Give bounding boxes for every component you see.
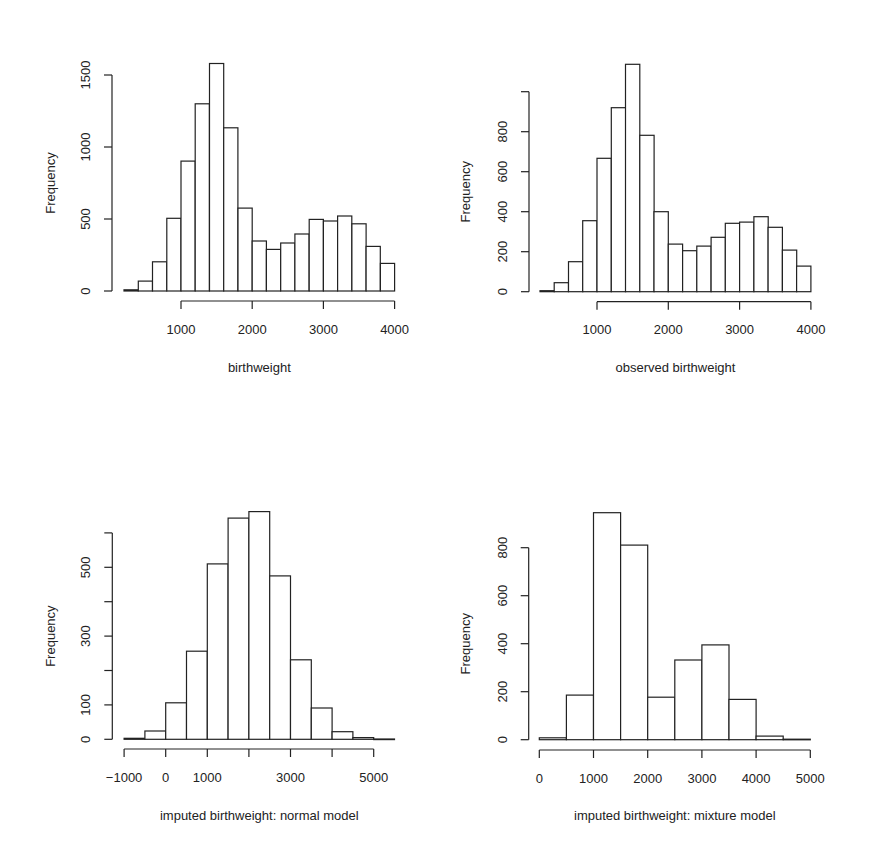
- histogram-bar: [166, 703, 187, 740]
- x-tick-label: 1000: [579, 771, 608, 786]
- y-tick-label: 400: [495, 201, 510, 223]
- histogram-bar: [353, 738, 374, 740]
- histogram-bar: [338, 216, 352, 291]
- x-tick-label: 3000: [725, 322, 754, 337]
- histogram-bar: [640, 135, 654, 291]
- histogram-bar: [756, 736, 783, 740]
- histogram-bar: [594, 513, 621, 740]
- y-axis-title: Frequency: [458, 612, 473, 674]
- y-tick-label: 0: [78, 287, 93, 294]
- histogram-bar: [725, 223, 739, 291]
- y-tick-label: 500: [78, 556, 93, 578]
- histogram-bar: [754, 217, 768, 292]
- x-tick-label: −1000: [106, 770, 143, 785]
- panel-imputed-normal-model: 0100300500 −10000100030005000 imputed bi…: [43, 512, 395, 823]
- y-tick-label: 200: [495, 241, 510, 263]
- histogram-bar: [675, 660, 702, 740]
- histogram-bar: [702, 645, 729, 740]
- histogram-bar: [167, 218, 181, 291]
- y-tick-label: 800: [495, 121, 510, 143]
- y-axis: 0200400600800: [495, 92, 529, 296]
- x-tick-label: 1000: [193, 770, 222, 785]
- panel-observed-birthweight: 0200400600800 1000200030004000 observed …: [458, 64, 825, 375]
- histogram-bar: [249, 512, 270, 740]
- histogram-bar: [224, 128, 238, 291]
- y-axis-title: Frequency: [458, 160, 473, 222]
- histogram-bar: [295, 234, 309, 291]
- x-tick-label: 2000: [654, 322, 683, 337]
- x-tick-label: 2000: [238, 322, 267, 337]
- y-tick-label: 100: [78, 694, 93, 716]
- x-tick-label: 3000: [687, 771, 716, 786]
- y-tick-label: 0: [495, 288, 510, 295]
- x-tick-label: 0: [536, 771, 543, 786]
- histogram-bar: [583, 221, 597, 292]
- x-axis: 010002000300040005000: [536, 750, 825, 786]
- histogram-bar: [124, 738, 145, 739]
- histogram-bar: [654, 212, 668, 292]
- histogram-bar: [768, 227, 782, 291]
- histogram-bar: [181, 161, 195, 291]
- histogram-bar: [210, 64, 224, 292]
- histogram-bar: [626, 64, 640, 291]
- x-tick-label: 5000: [796, 771, 825, 786]
- histogram-bar: [238, 208, 252, 291]
- y-axis: 0200400600800: [495, 537, 529, 743]
- x-axis: −10000100030005000: [106, 749, 388, 785]
- histogram-bar: [145, 731, 166, 739]
- histogram-bar: [621, 545, 648, 740]
- histogram-bar: [270, 576, 291, 739]
- histogram-bar: [291, 660, 312, 740]
- histogram-bar: [252, 241, 266, 291]
- histogram-bar: [648, 697, 675, 740]
- y-tick-label: 0: [495, 736, 510, 743]
- histogram-bar: [566, 695, 593, 740]
- y-axis: 050010001500: [78, 61, 112, 295]
- y-axis: 0100300500: [78, 533, 112, 743]
- x-tick-label: 1000: [583, 322, 612, 337]
- histogram-bar: [797, 266, 811, 292]
- y-axis-title: Frequency: [43, 605, 58, 667]
- x-tick-label: 4000: [380, 322, 409, 337]
- y-tick-label: 600: [495, 161, 510, 183]
- y-tick-label: 500: [78, 208, 93, 230]
- histogram-bar: [207, 564, 228, 739]
- y-tick-label: 400: [495, 633, 510, 655]
- histogram-bar: [697, 246, 711, 292]
- bars: [124, 512, 394, 740]
- bars: [124, 64, 395, 292]
- y-axis-title: Frequency: [43, 152, 58, 214]
- x-tick-label: 5000: [359, 770, 388, 785]
- y-tick-label: 0: [78, 736, 93, 743]
- histogram-bar: [540, 291, 554, 292]
- x-tick-label: 2000: [633, 771, 662, 786]
- y-tick-label: 600: [495, 585, 510, 607]
- x-tick-label: 0: [162, 770, 169, 785]
- histogram-bar: [539, 738, 566, 740]
- histogram-bar: [323, 221, 337, 291]
- x-axis-title: observed birthweight: [615, 360, 735, 375]
- histogram-bar: [228, 518, 249, 739]
- histogram-bar: [597, 158, 611, 291]
- panel-birthweight: 050010001500 1000200030004000 birthweigh…: [43, 61, 409, 375]
- y-tick-label: 1000: [78, 133, 93, 162]
- histogram-bar: [729, 699, 756, 739]
- histogram-bar: [266, 249, 280, 291]
- histogram-bar: [332, 732, 353, 740]
- histogram-bar: [569, 262, 583, 292]
- histogram-bar: [783, 739, 810, 740]
- histogram-bar: [683, 251, 697, 292]
- histogram-bar: [124, 290, 138, 291]
- histogram-bar: [668, 244, 682, 292]
- x-axis-title: birthweight: [228, 360, 291, 375]
- histogram-bar: [554, 283, 568, 292]
- histogram-bar: [366, 246, 380, 291]
- histogram-bar: [740, 222, 754, 292]
- x-axis-title: imputed birthweight: normal model: [160, 808, 359, 823]
- histogram-bar: [281, 243, 295, 291]
- y-tick-label: 1500: [78, 61, 93, 90]
- histogram-bar: [711, 237, 725, 291]
- histogram-bar: [380, 263, 394, 291]
- histogram-bar: [611, 108, 625, 292]
- x-tick-label: 4000: [742, 771, 771, 786]
